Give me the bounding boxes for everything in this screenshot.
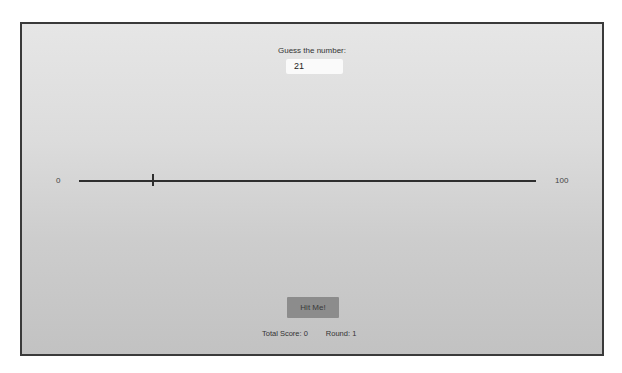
number-slider-track[interactable] — [79, 180, 536, 182]
number-slider-handle[interactable] — [152, 174, 154, 186]
total-score-label: Total Score: 0 — [262, 329, 308, 338]
round-label: Round: 1 — [326, 329, 356, 338]
hit-me-button[interactable]: Hit Me! — [287, 297, 339, 318]
guess-input[interactable] — [286, 59, 343, 74]
guess-prompt-label: Guess the number: — [22, 46, 602, 55]
slider-max-label: 100 — [555, 176, 568, 185]
slider-min-label: 0 — [56, 176, 60, 185]
status-row: Total Score: 0Round: 1 — [262, 329, 356, 338]
game-canvas: Guess the number: 0 100 Hit Me! Total Sc… — [20, 22, 604, 356]
